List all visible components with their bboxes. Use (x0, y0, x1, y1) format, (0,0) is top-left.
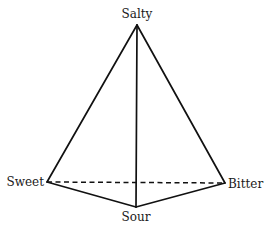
edges (47, 25, 225, 207)
edge-sweet-sour (47, 182, 136, 207)
vertex-label-sour: Sour (122, 210, 151, 224)
labels: Salty Sweet Bitter Sour (6, 7, 263, 224)
edge-sour-bitter (136, 183, 225, 207)
vertex-label-bitter: Bitter (228, 177, 263, 191)
edge-salty-bitter (137, 25, 225, 183)
edge-salty-sweet (47, 25, 137, 182)
edge-salty-sour (136, 25, 137, 207)
taste-tetrahedron-diagram: Salty Sweet Bitter Sour (0, 0, 273, 233)
vertex-label-sweet: Sweet (6, 175, 44, 189)
vertex-label-salty: Salty (122, 7, 153, 21)
